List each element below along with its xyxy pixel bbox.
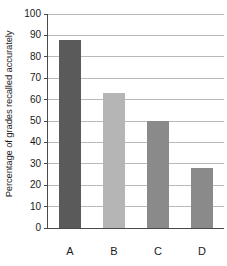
y-axis-tick-label: 70 [30,73,41,83]
x-axis-label-d: D [198,246,206,257]
x-axis-label-b: B [110,246,117,257]
y-axis-tick-mark [44,228,48,229]
x-axis-label-c: C [154,246,162,257]
y-axis-tick-mark [44,163,48,164]
bar-b [103,93,126,228]
y-axis-tick-label: 30 [30,159,41,169]
bar-c [147,121,170,228]
x-axis-label-a: A [66,246,73,257]
y-axis-tick-label: 50 [30,116,41,126]
y-axis-tick-mark [44,56,48,57]
bar-d [191,168,214,228]
y-axis-tick-mark [44,185,48,186]
bar-a [59,40,82,228]
y-axis-title: Percentage of grades recalled accurately [2,0,16,228]
y-axis-tick-label: 10 [30,202,41,212]
y-axis-tick-mark [44,99,48,100]
plot-area: 0102030405060708090100ABCD [47,14,224,229]
y-axis-tick-mark [44,78,48,79]
y-axis-tick-mark [44,121,48,122]
y-axis-tick-label: 0 [35,223,41,233]
gridline [48,35,224,36]
y-axis-tick-label: 90 [30,30,41,40]
y-axis-tick-label: 40 [30,137,41,147]
y-axis-tick-label: 100 [24,9,41,19]
bar-chart-figure: Percentage of grades recalled accurately… [0,0,227,266]
y-axis-tick-mark [44,35,48,36]
gridline [48,14,224,15]
y-axis-tick-label: 80 [30,52,41,62]
y-axis-tick-mark [44,14,48,15]
y-axis-tick-label: 60 [30,95,41,105]
y-axis-tick-label: 20 [30,180,41,190]
y-axis-tick-mark [44,142,48,143]
y-axis-tick-mark [44,206,48,207]
